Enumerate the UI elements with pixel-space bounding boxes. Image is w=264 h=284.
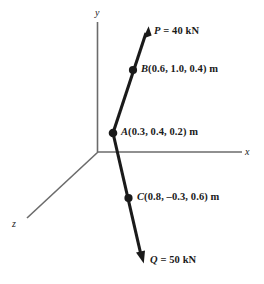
force-p-arrowhead: [143, 26, 152, 38]
point-c-coords: (0.8, –0.3, 0.6) m: [144, 191, 219, 202]
z-axis-label: z: [12, 219, 16, 229]
force-q-value: = 50 kN: [158, 254, 197, 265]
x-axis-label: x: [245, 147, 249, 157]
diagram-canvas: [0, 0, 264, 284]
z-axis-line: [27, 152, 98, 218]
point-a-coords: (0.3, 0.4, 0.2) m: [128, 126, 198, 137]
point-c-marker: [124, 194, 132, 202]
axes-group: [27, 22, 242, 218]
force-p-label: P = 40 kN: [154, 26, 199, 37]
point-a-marker: [109, 129, 118, 138]
point-c-label: C(0.8, –0.3, 0.6) m: [137, 192, 219, 203]
point-a-label: A(0.3, 0.4, 0.2) m: [121, 127, 198, 138]
force-p-vector: [113, 26, 152, 133]
point-b-label: B(0.6, 1.0, 0.4) m: [141, 64, 218, 75]
force-p-value: = 40 kN: [161, 25, 200, 36]
force-p-shaft: [113, 33, 146, 133]
force-q-symbol: Q: [150, 254, 158, 265]
y-axis-label: y: [95, 8, 99, 18]
force-q-label: Q = 50 kN: [150, 255, 196, 266]
force-vector-diagram: y x z P = 40 kN B(0.6, 1.0, 0.4) m A(0.3…: [0, 0, 264, 284]
force-q-arrowhead: [136, 251, 145, 264]
point-b-coords: (0.6, 1.0, 0.4) m: [148, 63, 218, 74]
point-b-marker: [129, 66, 137, 74]
